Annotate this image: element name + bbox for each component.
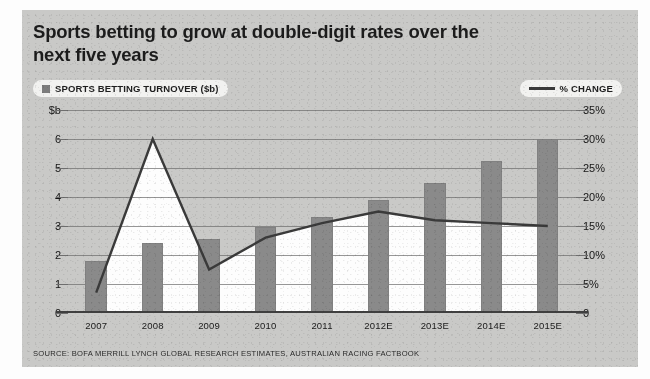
x-tick-label: 2007 xyxy=(85,320,107,331)
scan-edge-left xyxy=(0,0,22,379)
y-tickmark-right xyxy=(576,313,588,314)
filled-square-marker-icon xyxy=(42,85,50,93)
x-tick-label: 2008 xyxy=(142,320,164,331)
y-tickmark-left xyxy=(56,226,68,227)
line-series xyxy=(68,110,576,313)
chart-figure: Sports betting to grow at double-digit r… xyxy=(0,0,650,379)
y-tickmark-left xyxy=(56,110,68,111)
plot-area: $b6543210 35%30%25%20%15%10%5%0 20072008… xyxy=(68,110,576,313)
legend-label-turnover: SPORTS BETTING TURNOVER ($b) xyxy=(55,83,219,94)
scan-edge-right xyxy=(638,0,650,379)
page-title: Sports betting to grow at double-digit r… xyxy=(33,20,503,67)
y-tickmark-right xyxy=(576,255,588,256)
y-tickmark-left xyxy=(56,313,68,314)
y-tickmark-left xyxy=(56,255,68,256)
y-tickmark-right xyxy=(576,226,588,227)
x-tick-label: 2015E xyxy=(534,320,562,331)
source-note: SOURCE: BOFA MERRILL LYNCH GLOBAL RESEAR… xyxy=(33,349,419,358)
y-tickmark-left xyxy=(56,284,68,285)
x-tick-label: 2011 xyxy=(311,320,332,331)
scan-edge-bottom xyxy=(0,367,650,379)
y-tickmark-right xyxy=(576,168,588,169)
legend-item-pct-change: % CHANGE xyxy=(520,80,622,97)
x-tick-label: 2012E xyxy=(364,320,392,331)
x-axis-baseline xyxy=(56,311,588,313)
y-tickmark-left xyxy=(56,139,68,140)
legend-item-turnover: SPORTS BETTING TURNOVER ($b) xyxy=(33,80,228,97)
y-tickmark-left xyxy=(56,168,68,169)
y-tickmark-right xyxy=(576,284,588,285)
legend-label-pct-change: % CHANGE xyxy=(560,83,613,94)
y-tickmark-right xyxy=(576,139,588,140)
y-tickmark-right xyxy=(576,197,588,198)
x-tick-label: 2010 xyxy=(255,320,277,331)
x-tick-label: 2009 xyxy=(198,320,220,331)
scan-edge-top xyxy=(0,0,650,10)
y-tickmark-left xyxy=(56,197,68,198)
line-marker-icon xyxy=(529,87,555,90)
y-tickmark-right xyxy=(576,110,588,111)
x-tick-label: 2014E xyxy=(477,320,505,331)
x-tick-label: 2013E xyxy=(421,320,449,331)
